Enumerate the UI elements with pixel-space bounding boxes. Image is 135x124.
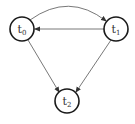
node-t2-sub: 2: [67, 101, 71, 109]
node-t2: t2: [55, 89, 79, 113]
edge-t1-to-t2: [76, 40, 111, 92]
edge-t0-to-t1: [30, 6, 106, 21]
node-t1-sub: 1: [116, 29, 120, 37]
graph-svg: t0 t1 t2: [0, 0, 135, 124]
diagram-canvas: t0 t1 t2: [0, 0, 135, 124]
edge-t0-to-t2: [28, 40, 59, 92]
node-t0-sub: 0: [22, 29, 26, 37]
node-t1: t1: [104, 17, 128, 41]
node-t0: t0: [10, 17, 34, 41]
